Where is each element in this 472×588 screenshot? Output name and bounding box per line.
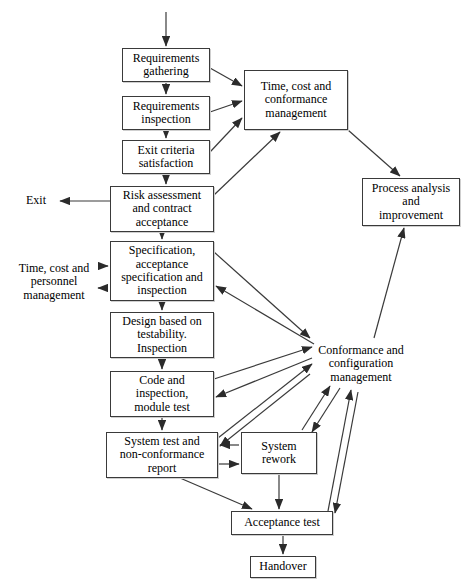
node-requirements-gathering[interactable]: Requirements gathering [122,48,210,82]
node-label-time-cost-and-conformance-management: Time, cost and conformance management [259,80,334,120]
edge-conformance-config-to-acceptance-test [335,392,358,513]
node-label-design-based-on-testability-inspection: Design based on testability. Inspection [120,315,203,355]
edge-system-rework-to-conformance-config [302,386,330,430]
node-label-exit-criteria-satisfaction: Exit criteria satisfaction [136,144,197,171]
node-requirements-inspection[interactable]: Requirements inspection [122,96,210,130]
edge-conformance-config-to-code [216,358,312,397]
node-time-cost-and-personnel-management[interactable]: Time, cost and personnel management [8,258,100,306]
node-label-specification-acceptance-specification-and-inspection: Specification, acceptance specification … [119,244,205,298]
edge-conformance-config-to-process-analysis [374,228,404,338]
edge-system-test-to-conformance-config [218,364,312,438]
node-label-code-and-inspection-module-test: Code and inspection, module test [132,374,192,414]
node-label-time-cost-and-personnel-management: Time, cost and personnel management [17,262,92,302]
node-label-handover: Handover [257,560,308,573]
edge-conformance-config-to-specification [216,286,314,344]
node-exit[interactable]: Exit [18,192,54,210]
node-system-test-and-non-conformance-report[interactable]: System test and non-conformance report [106,432,218,478]
node-label-system-test-and-non-conformance-report: System test and non-conformance report [118,435,207,475]
node-acceptance-test[interactable]: Acceptance test [231,511,333,535]
edge-conformance-config-to-system-rework [312,388,340,432]
node-risk-assessment-and-contract-acceptance[interactable]: Risk assessment and contract acceptance [110,186,214,232]
edge-exit-criteria-to-time-cost-conformance [210,118,242,152]
edge-requirements-gathering-to-time-cost-conformance [210,68,242,86]
node-specification-acceptance-specification-and-inspection[interactable]: Specification, acceptance specification … [110,241,214,301]
node-conformance-and-configuration-management[interactable]: Conformance and configuration management [306,340,416,388]
edge-risk-assessment-to-time-cost-conformance [214,132,280,195]
edge-acceptance-test-to-conformance-config [328,390,351,511]
node-exit-criteria-satisfaction[interactable]: Exit criteria satisfaction [122,140,210,174]
node-label-acceptance-test: Acceptance test [242,516,322,529]
edge-specification-to-conformance-config [214,252,310,338]
node-label-requirements-inspection: Requirements inspection [131,100,202,127]
node-code-and-inspection-module-test[interactable]: Code and inspection, module test [110,371,214,417]
node-system-rework[interactable]: System rework [241,432,317,474]
edge-system-test-to-acceptance-test [180,478,252,509]
node-label-risk-assessment-and-contract-acceptance: Risk assessment and contract acceptance [121,189,203,229]
flowchart-diagram: Requirements gatheringRequirements inspe… [0,0,472,588]
edge-requirements-inspection-to-time-cost-conformance [210,101,242,112]
node-time-cost-and-conformance-management[interactable]: Time, cost and conformance management [244,70,348,130]
node-label-conformance-and-configuration-management: Conformance and configuration management [316,344,406,384]
node-label-process-analysis-and-improvement: Process analysis and improvement [370,182,452,222]
node-design-based-on-testability-inspection[interactable]: Design based on testability. Inspection [110,312,214,358]
node-handover[interactable]: Handover [250,556,316,578]
node-label-requirements-gathering: Requirements gathering [131,52,202,79]
edge-time-cost-conformance-to-process-analysis [348,130,400,176]
node-process-analysis-and-improvement[interactable]: Process analysis and improvement [362,178,460,226]
edge-code-to-conformance-config [214,347,312,379]
node-label-exit: Exit [24,194,48,207]
node-label-system-rework: System rework [259,440,298,467]
